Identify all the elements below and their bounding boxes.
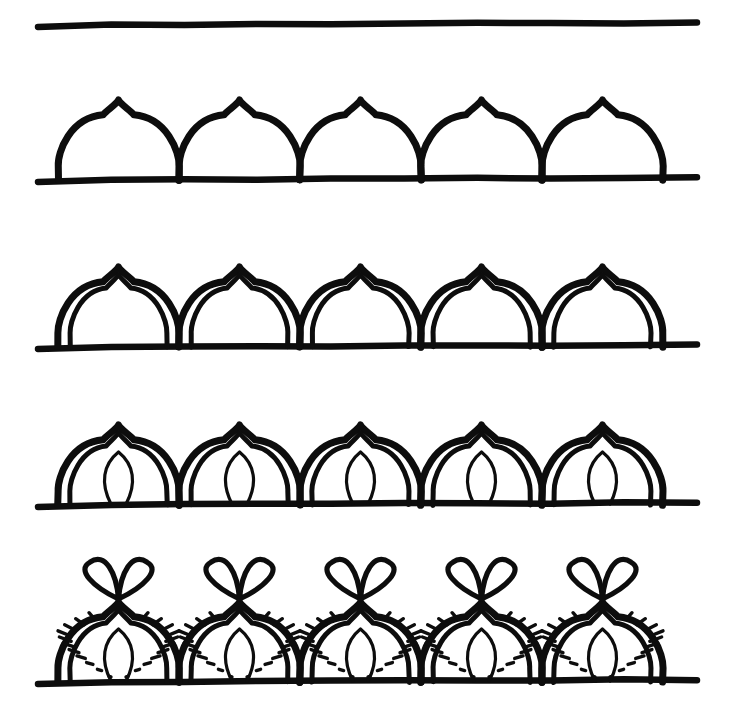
drawing-canvas (0, 0, 730, 728)
pattern-illustration (0, 0, 730, 728)
hatch-rung (256, 669, 260, 670)
baseline-2 (38, 344, 697, 349)
hatch-rung (628, 663, 634, 665)
hatch-rung (152, 656, 160, 658)
hatch-rung (329, 663, 335, 665)
hatch-rung (507, 663, 513, 665)
hatch-rung (450, 663, 456, 665)
hatch-rung (619, 669, 623, 670)
hatch-rung (208, 663, 214, 665)
hatch-rung (319, 656, 327, 658)
hatch-rung (339, 669, 343, 670)
hatch-rung (97, 669, 101, 670)
hatch-rung (581, 669, 585, 670)
hatch-rung (77, 656, 85, 658)
hatch-rung (377, 669, 381, 670)
hatch-rung (198, 656, 206, 658)
hatch-rung (144, 663, 150, 665)
hatch-rung (394, 656, 402, 658)
hatch-rung (460, 669, 464, 670)
hatch-rung (265, 663, 271, 665)
hatch-rung (561, 656, 569, 658)
baseline-0 (38, 23, 697, 27)
baseline-1 (38, 177, 697, 182)
hatch-rung (498, 669, 502, 670)
step-0-guideline (38, 23, 697, 27)
hatch-rung (636, 656, 644, 658)
hatch-rung (273, 656, 281, 658)
hatch-rung (571, 663, 577, 665)
hatch-rung (386, 663, 392, 665)
hatch-rung (135, 669, 139, 670)
hatch-rung (87, 663, 93, 665)
hatch-rung (515, 656, 523, 658)
hatch-rung (440, 656, 448, 658)
hatch-rung (218, 669, 222, 670)
